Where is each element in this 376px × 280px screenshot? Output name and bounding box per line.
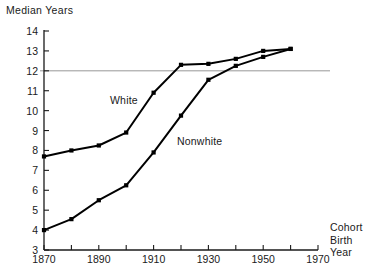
x-tick-label: 1930 bbox=[188, 253, 228, 265]
x-axis-label-line: Cohort bbox=[330, 221, 363, 234]
y-tick-label: 6 bbox=[12, 184, 38, 196]
data-series-group bbox=[42, 47, 293, 232]
y-tick-label: 7 bbox=[12, 164, 38, 176]
y-tick-label: 5 bbox=[12, 204, 38, 216]
x-axis-label-line: Year bbox=[330, 246, 363, 259]
y-tick-label: 11 bbox=[12, 85, 38, 97]
x-axis-label-line: Birth bbox=[330, 234, 363, 247]
series-annotation: White bbox=[110, 94, 138, 106]
series-annotation: Nonwhite bbox=[177, 135, 222, 147]
y-tick-label: 8 bbox=[12, 144, 38, 156]
y-tick-label: 4 bbox=[12, 224, 38, 236]
x-tick-label: 1950 bbox=[243, 253, 283, 265]
chart-container: Median Years 34567891011121314 187018901… bbox=[0, 0, 376, 280]
y-tick-label: 13 bbox=[12, 45, 38, 57]
x-axis-label: CohortBirthYear bbox=[330, 221, 363, 259]
y-tick-label: 9 bbox=[12, 125, 38, 137]
x-tick-label: 1870 bbox=[24, 253, 64, 265]
y-tick-label: 10 bbox=[12, 105, 38, 117]
y-tick-label: 12 bbox=[12, 65, 38, 77]
x-tick-label: 1910 bbox=[134, 253, 174, 265]
y-tick-label: 14 bbox=[12, 25, 38, 37]
x-tick-label: 1890 bbox=[79, 253, 119, 265]
